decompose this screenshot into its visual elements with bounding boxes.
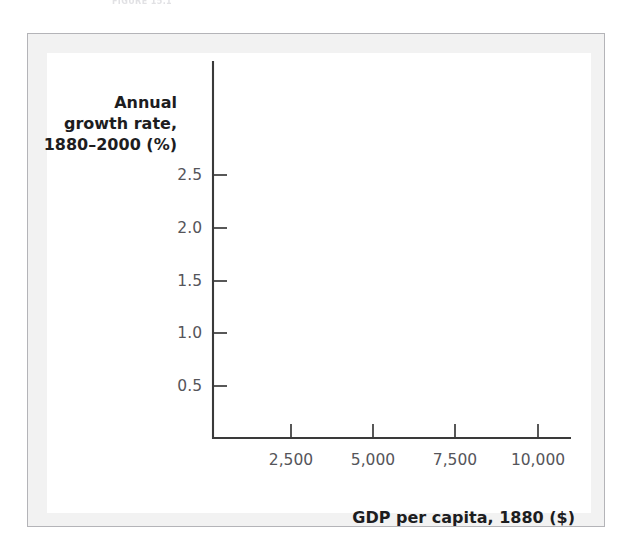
figure-frame: Annual growth rate, 1880–2000 (%) 2.5 2.… [27, 33, 605, 527]
x-axis-title: GDP per capita, 1880 ($) [352, 507, 575, 528]
y-axis-title-line-3: 1880–2000 (%) [0, 134, 177, 155]
top-residue-caption: FIGURE 15.1 [112, 0, 232, 6]
y-tick-label-1-0: 1.0 [142, 324, 202, 342]
y-axis-title: Annual growth rate, 1880–2000 (%) [0, 92, 177, 155]
y-tick-label-2-0: 2.0 [142, 219, 202, 237]
x-tick-label-5000: 5,000 [333, 451, 413, 469]
y-tick-label-1-5: 1.5 [142, 272, 202, 290]
x-tick-label-10000: 10,000 [498, 451, 578, 469]
x-tick-label-2500: 2,500 [251, 451, 331, 469]
x-tick-label-7500: 7,500 [415, 451, 495, 469]
y-axis-title-line-1: Annual [0, 92, 177, 113]
axis-lines [213, 61, 571, 438]
y-tick-label-2-5: 2.5 [142, 166, 202, 184]
y-tick-marks [213, 175, 227, 386]
x-tick-marks [291, 424, 538, 438]
y-tick-label-0-5: 0.5 [142, 377, 202, 395]
chart-plot-area: Annual growth rate, 1880–2000 (%) 2.5 2.… [28, 34, 606, 528]
y-axis-title-line-2: growth rate, [0, 113, 177, 134]
